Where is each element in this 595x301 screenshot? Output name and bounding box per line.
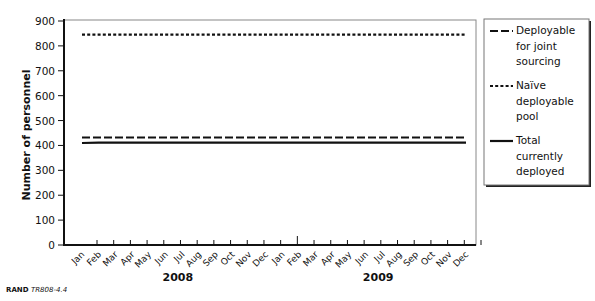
x-tick-label: Oct (419, 249, 437, 267)
legend-label: sourcing (516, 55, 561, 67)
x-tick-label: Jan (69, 249, 87, 267)
x-tick-label: Sep (401, 249, 420, 268)
y-tick-label: 400 (35, 139, 55, 151)
x-tick-label: Sep (201, 249, 220, 268)
x-tick-label: Oct (219, 249, 237, 267)
x-tick-label: Feb (85, 249, 104, 268)
y-tick-label: 900 (35, 15, 55, 27)
legend-label: deployable (516, 95, 574, 107)
legend-label: currently (516, 150, 563, 162)
x-tick-label: Mar (101, 249, 120, 268)
x-tick-label: Aug (184, 249, 204, 269)
x-tick-label: Feb (285, 249, 304, 268)
y-tick-label: 700 (35, 65, 55, 77)
legend-label: Total (515, 134, 541, 146)
x-tick-label: May (133, 249, 154, 270)
legend-label: deployed (516, 165, 564, 177)
x-tick-label: May (333, 249, 354, 270)
line-chart: 0100200300400500600700800900Number of pe… (0, 0, 595, 301)
x-tick-label: Nov (234, 249, 254, 269)
y-tick-label: 200 (35, 189, 55, 201)
legend-label: Deployable (516, 24, 575, 36)
y-tick-label: 600 (35, 90, 55, 102)
legend-label: for joint (516, 40, 557, 52)
y-axis-title: Number of personnel (20, 69, 33, 200)
x-tick-label: Dec (251, 249, 270, 268)
x-tick-label: Aug (384, 249, 404, 269)
source-note: RAND TR808-4.4 (6, 286, 67, 294)
year-label: 2009 (363, 271, 394, 284)
x-tick-label: Jun (152, 249, 170, 267)
legend-label: Naïve (516, 79, 546, 91)
legend-label: pool (516, 110, 538, 122)
y-tick-label: 800 (35, 40, 55, 52)
y-tick-label: 100 (35, 214, 55, 226)
y-tick-label: 0 (48, 239, 55, 251)
y-tick-label: 500 (35, 115, 55, 127)
x-tick-label: Jan (269, 249, 287, 267)
x-tick-label: Mar (301, 249, 320, 268)
x-tick-label: Dec (451, 249, 470, 268)
x-tick-label: Nov (434, 249, 454, 269)
year-label: 2008 (163, 271, 194, 284)
x-tick-label: Jun (353, 249, 371, 267)
y-tick-label: 300 (35, 164, 55, 176)
plot-frame (64, 20, 476, 245)
